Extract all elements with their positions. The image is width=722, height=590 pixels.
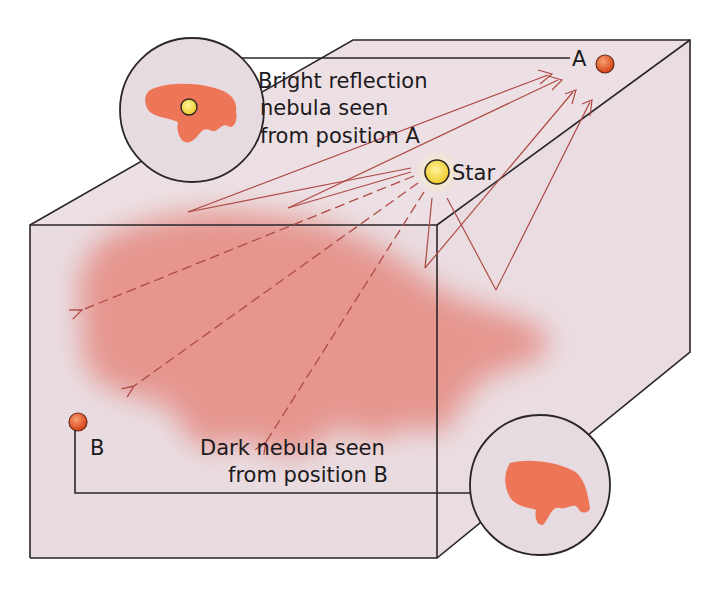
diagram-canvas: Bright reflection nebula seen from posit… xyxy=(0,0,722,590)
star-icon xyxy=(425,160,449,184)
observer-a xyxy=(596,55,614,73)
inset-a xyxy=(120,38,264,182)
star-label: Star xyxy=(452,161,495,185)
inset-a-star-icon xyxy=(181,99,197,115)
position-b-label: B xyxy=(90,436,104,460)
inset-a-caption-line1: Bright reflection xyxy=(258,69,427,93)
inset-b xyxy=(470,415,610,555)
observer-a-icon xyxy=(596,55,614,73)
position-a-label: A xyxy=(572,47,587,71)
inset-a-caption-line2: nebula seen xyxy=(260,96,388,120)
inset-b-caption-line2: from position B xyxy=(228,463,388,487)
observer-b-icon xyxy=(69,413,87,431)
inset-a-caption-line3: from position A xyxy=(260,124,420,148)
nebula-diagram: Bright reflection nebula seen from posit… xyxy=(0,0,722,590)
inset-b-caption-line1: Dark nebula seen xyxy=(200,436,385,460)
